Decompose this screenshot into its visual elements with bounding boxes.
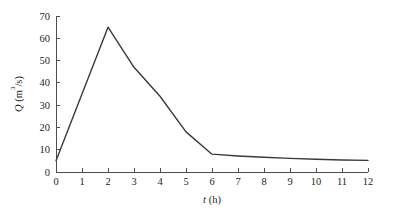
y-tick-label: 70 bbox=[40, 11, 51, 22]
y-tick-label: 60 bbox=[40, 33, 51, 44]
y-tick-label: 30 bbox=[40, 100, 51, 111]
x-tick-label: 8 bbox=[261, 176, 266, 187]
x-axis-title: t (h) bbox=[203, 194, 221, 206]
y-axis-tick-labels: 010203040506070 bbox=[40, 11, 51, 178]
x-tick-label: 1 bbox=[79, 176, 84, 187]
y-tick-label: 20 bbox=[40, 122, 51, 133]
x-tick-label: 12 bbox=[363, 176, 374, 187]
y-tick-label: 10 bbox=[40, 144, 51, 155]
chart-figure: 0123456789101112 010203040506070 t (h) Q… bbox=[0, 0, 409, 214]
y-axis-title: Q (m3/s) bbox=[9, 76, 26, 112]
x-axis-tick-labels: 0123456789101112 bbox=[53, 176, 373, 187]
x-tick-label: 2 bbox=[105, 176, 110, 187]
x-tick-label: 9 bbox=[287, 176, 292, 187]
x-tick-label: 7 bbox=[235, 176, 240, 187]
x-tick-label: 4 bbox=[157, 176, 163, 187]
x-axis-ticks bbox=[56, 168, 368, 172]
hydrograph-plot: 0123456789101112 010203040506070 t (h) Q… bbox=[0, 0, 409, 214]
data-series-line bbox=[56, 27, 368, 161]
x-tick-label: 10 bbox=[311, 176, 322, 187]
x-tick-label: 5 bbox=[183, 176, 188, 187]
x-tick-label: 6 bbox=[209, 176, 214, 187]
y-tick-label: 0 bbox=[45, 167, 50, 178]
y-tick-label: 40 bbox=[40, 77, 51, 88]
y-tick-label: 50 bbox=[40, 55, 51, 66]
x-tick-label: 11 bbox=[337, 176, 347, 187]
x-tick-label: 0 bbox=[53, 176, 58, 187]
y-axis-ticks bbox=[56, 16, 60, 172]
x-tick-label: 3 bbox=[131, 176, 136, 187]
